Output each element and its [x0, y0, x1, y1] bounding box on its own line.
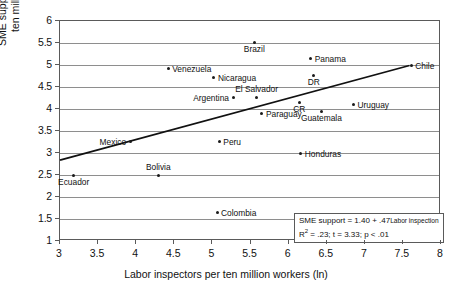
y-tick-label-6: 6 [24, 14, 52, 26]
annotation-equation: SME support = 1.40 + .47Labor inspection [299, 216, 439, 226]
y-tick-label-5.5: 5.5 [24, 36, 52, 48]
x-tick-label-4: 4 [120, 247, 150, 259]
data-label-nicaragua: Nicaragua [218, 74, 256, 83]
data-point-venezuela [167, 67, 170, 70]
data-label-uruguay: Uruguay [357, 100, 389, 109]
x-tick-mark-7 [364, 240, 365, 244]
scatter-plot-figure: SME support personnel per ten million pe… [0, 0, 452, 285]
x-tick-mark-6.5 [326, 240, 327, 244]
data-label-guatemala: Guatemala [301, 114, 342, 123]
x-tick-mark-3 [59, 240, 60, 244]
y-tick-label-5: 5 [24, 58, 52, 70]
y-tick-label-1.5: 1.5 [24, 212, 52, 224]
data-label-panama: Panama [315, 54, 346, 63]
y-tick-label-2: 2 [24, 190, 52, 202]
data-label-bolivia: Bolivia [146, 163, 171, 172]
y-tick-label-4.5: 4.5 [24, 80, 52, 92]
x-tick-label-3.5: 3.5 [82, 247, 112, 259]
plot-area: EcuadorMexicoBoliviaVenezuelaColombiaPer… [59, 20, 440, 240]
x-tick-mark-7.5 [402, 240, 403, 244]
annotation-statistics: R2 = .23; t = 3.33; p < .01 [299, 226, 439, 240]
data-point-argentina [232, 96, 235, 99]
data-label-chile: Chile [415, 62, 434, 71]
annotation-subscript: Labor inspection [390, 217, 438, 224]
x-tick-label-3: 3 [44, 247, 74, 259]
data-point-colombia [216, 211, 219, 214]
y-axis-title: SME support personnel per ten million pe… [0, 0, 22, 52]
y-tick-label-2.5: 2.5 [24, 168, 52, 180]
y-tick-label-3.5: 3.5 [24, 124, 52, 136]
data-label-dr: DR [308, 78, 320, 87]
x-tick-label-5: 5 [196, 247, 226, 259]
x-tick-mark-5.5 [250, 240, 251, 244]
x-tick-label-4.5: 4.5 [158, 247, 188, 259]
data-label-colombia: Colombia [221, 209, 256, 218]
data-point-panama [309, 57, 312, 60]
data-label-mexico: Mexico [100, 137, 127, 146]
x-tick-label-5.5: 5.5 [235, 247, 265, 259]
x-tick-label-6.5: 6.5 [311, 247, 341, 259]
data-point-uruguay [352, 103, 355, 106]
data-label-argentina: Argentina [193, 93, 229, 102]
data-label-el-salvador: El Salvador [235, 85, 278, 94]
y-tick-label-4: 4 [24, 102, 52, 114]
data-label-brazil: Brazil [244, 45, 265, 54]
x-tick-label-7.5: 7.5 [387, 247, 417, 259]
x-tick-label-6: 6 [273, 247, 303, 259]
x-tick-label-7: 7 [349, 247, 379, 259]
x-tick-mark-5 [211, 240, 212, 244]
x-tick-mark-8 [440, 240, 441, 244]
data-label-venezuela: Venezuela [172, 64, 211, 73]
regression-annotation: SME support = 1.40 + .47Labor inspection… [294, 213, 444, 243]
y-tick-label-1: 1 [24, 234, 52, 246]
data-label-honduras: Honduras [305, 150, 341, 159]
data-point-el-salvador [255, 96, 258, 99]
x-tick-label-8: 8 [425, 247, 452, 259]
data-point-peru [218, 140, 221, 143]
data-label-ecuador: Ecuador [58, 178, 89, 187]
x-tick-mark-6 [288, 240, 289, 244]
x-tick-mark-4 [135, 240, 136, 244]
x-tick-mark-3.5 [97, 240, 98, 244]
data-point-bolivia [157, 174, 160, 177]
y-tick-label-3: 3 [24, 146, 52, 158]
data-point-mexico [129, 140, 132, 143]
x-tick-mark-4.5 [173, 240, 174, 244]
x-axis-title: Labor inspectors per ten million workers… [0, 268, 452, 280]
data-label-peru: Peru [223, 137, 241, 146]
